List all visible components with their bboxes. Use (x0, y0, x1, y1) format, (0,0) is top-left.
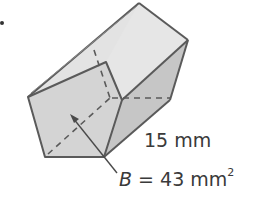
base-variable: B (119, 168, 132, 190)
base-value: = 43 mm (132, 168, 227, 190)
base-exponent: 2 (227, 166, 234, 179)
height-label: 15 mm (144, 131, 211, 150)
bullet-dot (0, 21, 4, 25)
front-pentagon-face (28, 62, 122, 157)
base-area-label: B = 43 mm2 (119, 170, 234, 189)
